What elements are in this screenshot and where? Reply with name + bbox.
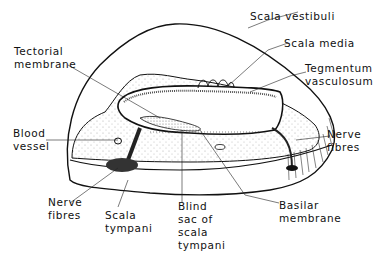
label-nerve-left-2: fibres <box>48 209 81 221</box>
label-nerve-left-1: Nerve <box>48 196 82 208</box>
label-basilar-2: membrane <box>279 212 341 224</box>
label-tectorial-2: membrane <box>14 58 76 70</box>
label-basilar-1: Basilar <box>279 199 319 211</box>
label-blind-4: tympani <box>178 239 225 251</box>
label-scala-tympani-1: Scala <box>105 209 136 221</box>
label-scala-tympani-2: tympani <box>105 222 152 234</box>
label-blood-2: vessel <box>13 140 50 152</box>
label-blind-3: scala <box>178 226 208 238</box>
ganglion-right <box>286 165 298 171</box>
label-nerve-right-1: Nerve <box>327 128 361 140</box>
label-blood-1: Blood <box>13 127 46 139</box>
label-tegmentum-2: vasculosum <box>305 75 373 87</box>
label-tectorial-1: Tectorial <box>14 45 63 57</box>
label-scala-vestibuli: Scala vestibuli <box>250 10 335 22</box>
label-tegmentum-1: Tegmentum <box>305 62 373 74</box>
label-nerve-right-2: fibres <box>327 141 360 153</box>
label-blind-1: Blind <box>178 200 207 212</box>
label-blind-2: sac of <box>178 213 213 225</box>
label-scala-media: Scala media <box>284 37 355 49</box>
ganglion-left <box>106 158 138 172</box>
